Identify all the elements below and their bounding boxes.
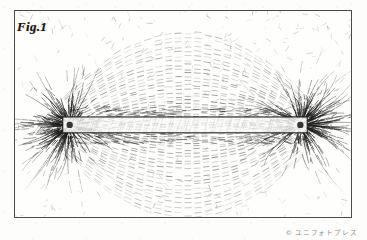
credit-agency-name: ユニフォトプレス bbox=[295, 229, 358, 237]
magnetic-field-canvas bbox=[15, 11, 351, 217]
right-pole bbox=[297, 122, 303, 128]
copyright-credit: ©ユニフォトプレス bbox=[285, 230, 358, 237]
figure-root: Fig.1 ©ユニフォトプレス bbox=[0, 0, 367, 240]
illustration-plate-frame bbox=[14, 10, 352, 218]
left-pole bbox=[66, 122, 72, 128]
copyright-symbol: © bbox=[285, 229, 292, 237]
figure-label: Fig.1 bbox=[17, 20, 47, 33]
iron-filings-diagram bbox=[15, 11, 351, 217]
